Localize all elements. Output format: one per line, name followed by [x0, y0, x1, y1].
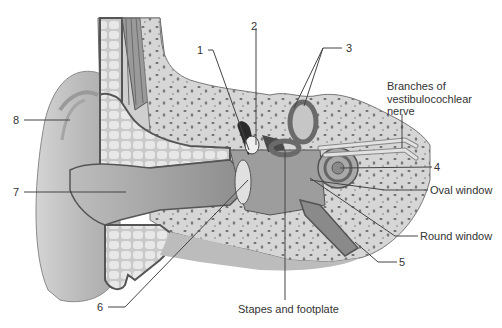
label-round-window: Round window: [420, 230, 492, 242]
label-oval-window: Oval window: [430, 184, 492, 196]
label-2: 2: [251, 20, 257, 32]
ear-anatomy-diagram: 1 2 3 4 5 6 7 8 Oval window Round window…: [0, 0, 502, 328]
ear-illustration: [0, 0, 502, 328]
label-1: 1: [197, 44, 203, 56]
label-4: 4: [434, 161, 440, 173]
label-7: 7: [13, 186, 19, 198]
label-5: 5: [399, 256, 405, 268]
label-8: 8: [13, 114, 19, 126]
label-vestibulocochlear-nerve: Branches of vestibulocochlear nerve: [387, 80, 472, 118]
label-stapes-and-footplate: Stapes and footplate: [238, 303, 339, 315]
label-6: 6: [97, 301, 103, 313]
label-3: 3: [346, 42, 352, 54]
eardrum: [235, 160, 251, 204]
